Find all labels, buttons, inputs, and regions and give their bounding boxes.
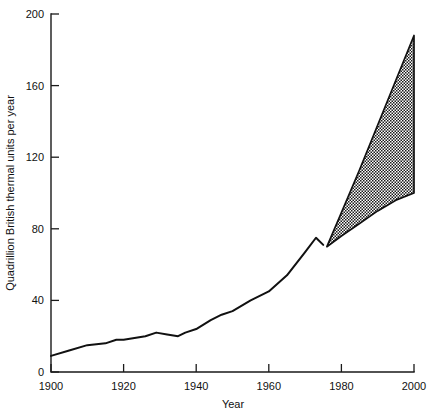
- plot-area: [51, 35, 414, 355]
- y-axis-ticks: [51, 14, 59, 372]
- energy-consumption-chart: 04080120160200 190019201940196019802000 …: [0, 0, 436, 414]
- y-tick-label: 200: [26, 8, 44, 20]
- chart-canvas: 04080120160200 190019201940196019802000 …: [0, 0, 436, 414]
- x-tick-label: 2000: [402, 380, 426, 392]
- y-axis-tick-labels: 04080120160200: [26, 8, 44, 378]
- y-tick-label: 0: [38, 366, 44, 378]
- x-tick-label: 1960: [257, 380, 281, 392]
- historical-consumption-line: [51, 238, 323, 356]
- y-tick-label: 80: [32, 223, 44, 235]
- y-tick-label: 160: [26, 80, 44, 92]
- y-tick-label: 40: [32, 294, 44, 306]
- x-tick-label: 1920: [111, 380, 135, 392]
- y-axis-title: Quadrillion British thermal units per ye…: [4, 95, 16, 291]
- x-tick-label: 1980: [329, 380, 353, 392]
- x-tick-label: 1900: [39, 380, 63, 392]
- x-axis-title: Year: [222, 398, 245, 410]
- x-axis-ticks: [51, 364, 414, 372]
- x-axis-tick-labels: 190019201940196019802000: [39, 380, 426, 392]
- projection-band: [327, 35, 414, 246]
- x-tick-label: 1940: [184, 380, 208, 392]
- y-tick-label: 120: [26, 151, 44, 163]
